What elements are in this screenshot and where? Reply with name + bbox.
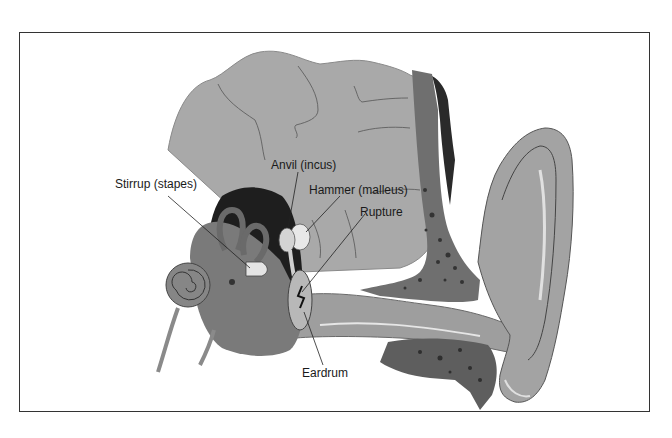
cochlea [166, 263, 210, 307]
label-anvil: Anvil (incus) [271, 158, 336, 172]
eardrum [288, 270, 312, 330]
anvil [279, 228, 295, 252]
label-eardrum: Eardrum [302, 366, 348, 380]
label-hammer: Hammer (malleus) [309, 183, 408, 197]
label-rupture: Rupture [360, 205, 403, 219]
lower-tissue [380, 338, 497, 410]
label-stirrup: Stirrup (stapes) [115, 177, 197, 191]
stirrup [246, 262, 267, 276]
